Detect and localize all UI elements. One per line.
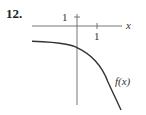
function-graph: 1 1 x f(x)	[0, 0, 146, 115]
x-axis-label: x	[125, 19, 131, 31]
y-tick-label-1: 1	[62, 11, 68, 23]
x-tick-label-1: 1	[94, 30, 100, 42]
function-curve	[32, 41, 121, 110]
function-label: f(x)	[115, 75, 131, 88]
